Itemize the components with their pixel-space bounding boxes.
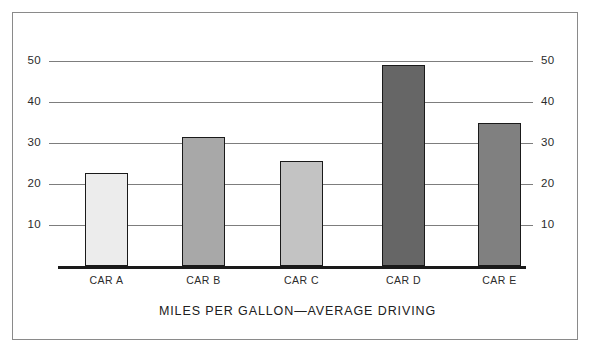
- tick-right-40: [520, 102, 533, 103]
- bar-car-e: [478, 123, 521, 266]
- x-axis-label-car-b: CAR B: [164, 274, 244, 286]
- x-axis-label-car-d: CAR D: [364, 274, 444, 286]
- y-axis-right-label-20: 20: [541, 177, 567, 189]
- tick-right-10: [520, 225, 533, 226]
- gridline-50: [62, 61, 520, 62]
- chart-figure: 50504040303020201010 CAR ACAR BCAR CCAR …: [0, 0, 595, 358]
- tick-left-40: [49, 102, 62, 103]
- y-axis-left-label-50: 50: [15, 54, 41, 66]
- y-axis-left-label-20: 20: [15, 177, 41, 189]
- tick-left-10: [49, 225, 62, 226]
- gridline-30: [62, 143, 520, 144]
- axis-baseline: [58, 266, 526, 269]
- tick-right-50: [520, 61, 533, 62]
- y-axis-right-label-30: 30: [541, 136, 567, 148]
- tick-left-30: [49, 143, 62, 144]
- gridline-40: [62, 102, 520, 103]
- chart-title: MILES PER GALLON—AVERAGE DRIVING: [0, 304, 595, 318]
- y-axis-left-label-40: 40: [15, 95, 41, 107]
- y-axis-left-label-30: 30: [15, 136, 41, 148]
- y-axis-left-label-10: 10: [15, 218, 41, 230]
- tick-left-20: [49, 184, 62, 185]
- bar-car-b: [182, 137, 225, 266]
- bar-car-d: [382, 65, 425, 266]
- tick-left-50: [49, 61, 62, 62]
- bar-car-c: [280, 161, 323, 266]
- y-axis-right-label-50: 50: [541, 54, 567, 66]
- x-axis-label-car-c: CAR C: [262, 274, 342, 286]
- y-axis-right-label-10: 10: [541, 218, 567, 230]
- x-axis-label-car-a: CAR A: [67, 274, 147, 286]
- bar-car-a: [85, 173, 128, 266]
- tick-right-20: [520, 184, 533, 185]
- tick-right-30: [520, 143, 533, 144]
- y-axis-right-label-40: 40: [541, 95, 567, 107]
- x-axis-label-car-e: CAR E: [460, 274, 540, 286]
